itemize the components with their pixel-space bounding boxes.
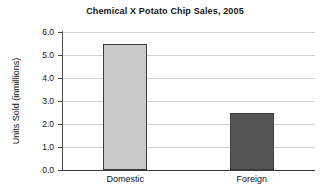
y-axis-tick-label: 0.0	[28, 165, 54, 175]
y-axis-tick	[58, 32, 63, 33]
x-axis-label-foreign: Foreign	[236, 174, 267, 184]
bar-foreign	[230, 113, 274, 171]
gridline	[62, 78, 315, 79]
gridline	[62, 32, 315, 33]
y-axis-tick-label: 2.0	[28, 119, 54, 129]
y-axis-tick	[58, 147, 63, 148]
y-axis-tick	[58, 170, 63, 171]
chart-title: Chemical X Potato Chip Sales, 2005	[0, 6, 330, 16]
y-axis-title-container: Units Sold (inmillions)	[8, 32, 24, 170]
plot-area	[62, 32, 315, 170]
x-axis-label-domestic: Domestic	[106, 174, 144, 184]
y-axis-tick-label: 6.0	[28, 27, 54, 37]
y-axis-title: Units Sold (inmillions)	[11, 58, 21, 145]
gridline	[62, 101, 315, 102]
axis-baseline	[62, 170, 315, 171]
y-axis-tick	[58, 78, 63, 79]
y-axis-tick-label: 5.0	[28, 50, 54, 60]
gridline	[62, 124, 315, 125]
y-axis-tick	[58, 124, 63, 125]
gridline	[62, 147, 315, 148]
y-axis-tick	[58, 55, 63, 56]
bar-chart: Chemical X Potato Chip Sales, 2005 Units…	[0, 0, 330, 195]
y-axis-tick	[58, 101, 63, 102]
gridline	[62, 55, 315, 56]
y-axis-tick-label: 4.0	[28, 73, 54, 83]
bar-domestic	[103, 44, 147, 171]
y-axis-tick-label: 1.0	[28, 142, 54, 152]
y-axis-tick-label: 3.0	[28, 96, 54, 106]
